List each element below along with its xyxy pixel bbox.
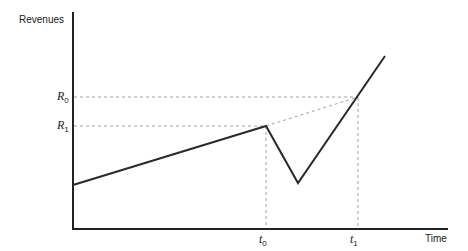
r0-label: R0 <box>57 89 69 105</box>
x-axis-label: Time <box>425 233 447 244</box>
r1-label: R1 <box>57 118 69 134</box>
t1-label: t1 <box>350 232 358 248</box>
y-axis-label: Revenues <box>19 14 64 25</box>
revenue-line <box>73 56 385 185</box>
trend-extrapolation <box>266 97 358 126</box>
chart-canvas <box>0 0 468 251</box>
t0-label: t0 <box>259 232 267 248</box>
